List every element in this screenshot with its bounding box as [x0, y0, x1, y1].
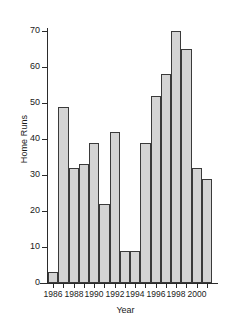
y-tick-mark: [42, 31, 47, 32]
bar: [69, 168, 79, 283]
y-tick-label: 20: [8, 206, 40, 215]
y-tick-label-wrap: 0: [0, 278, 40, 287]
bar: [120, 251, 130, 283]
y-tick-mark: [42, 67, 47, 68]
bar: [48, 272, 58, 283]
bar: [161, 74, 171, 283]
bars-layer: [48, 25, 214, 283]
bar: [58, 107, 68, 283]
y-tick-label: 50: [8, 98, 40, 107]
y-tick-label: 70: [8, 26, 40, 35]
y-tick-mark: [42, 211, 47, 212]
bar: [192, 168, 202, 283]
y-tick-label: 0: [8, 278, 40, 287]
y-tick-label-wrap: 20: [0, 206, 40, 215]
bar: [89, 143, 99, 283]
x-tick-mark: [94, 284, 95, 288]
y-tick-label-wrap: 10: [0, 242, 40, 251]
y-tick-mark: [42, 247, 47, 248]
x-tick-mark: [186, 284, 187, 288]
x-axis-title: Year: [0, 305, 251, 315]
x-tick-mark: [63, 284, 64, 288]
y-tick-label-wrap: 60: [0, 62, 40, 71]
bar: [99, 204, 109, 283]
x-tick-mark: [197, 284, 198, 288]
bar: [79, 164, 89, 283]
y-tick-mark: [42, 283, 47, 284]
y-tick-label: 10: [8, 242, 40, 251]
x-tick-mark: [145, 284, 146, 288]
x-tick-mark: [207, 284, 208, 288]
x-tick-label: 2000: [182, 289, 212, 299]
y-tick-mark: [42, 103, 47, 104]
bar: [171, 31, 181, 283]
x-tick-mark: [125, 284, 126, 288]
x-tick-mark: [53, 284, 54, 288]
y-tick-label: 60: [8, 62, 40, 71]
y-tick-label: 40: [8, 134, 40, 143]
bar-chart: Home Runs 010203040506070 19861988199019…: [0, 0, 251, 329]
y-tick-label-wrap: 70: [0, 26, 40, 35]
x-axis-line: [40, 283, 218, 284]
x-tick-mark: [84, 284, 85, 288]
bar: [110, 132, 120, 283]
bar: [181, 49, 191, 283]
x-tick-mark: [104, 284, 105, 288]
y-tick-label-wrap: 30: [0, 170, 40, 179]
x-tick-mark: [166, 284, 167, 288]
x-tick-mark: [176, 284, 177, 288]
x-tick-mark: [135, 284, 136, 288]
y-tick-label-wrap: 40: [0, 134, 40, 143]
y-tick-label-wrap: 50: [0, 98, 40, 107]
y-tick-label: 30: [8, 170, 40, 179]
x-tick-mark: [74, 284, 75, 288]
x-tick-mark: [115, 284, 116, 288]
y-tick-mark: [42, 175, 47, 176]
bar: [130, 251, 140, 283]
bar: [151, 96, 161, 283]
bar: [202, 179, 212, 283]
x-tick-mark: [156, 284, 157, 288]
bar: [140, 143, 150, 283]
y-tick-mark: [42, 139, 47, 140]
